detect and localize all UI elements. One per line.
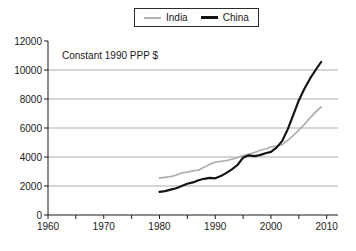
legend-label-china: China [223,13,249,23]
plot-area: 0200040006000800010000120001960197019801… [0,0,356,251]
legend-item-china: China [201,13,249,23]
chart-figure: 0200040006000800010000120001960197019801… [0,0,356,251]
y-tick-label: 6000 [20,123,43,134]
china-line-swatch [201,16,218,19]
y-tick-label: 8000 [20,94,43,105]
y-tick-label: 0 [36,210,42,221]
y-tick-label: 2000 [20,181,43,192]
y-tick-label: 4000 [20,152,43,163]
y-tick-label: 12000 [14,36,42,47]
units-annotation: Constant 1990 PPP $ [62,50,158,61]
series-line-india [160,107,322,178]
india-line-swatch [144,17,161,19]
y-tick-label: 10000 [14,65,42,76]
x-tick-label: 1990 [204,221,227,232]
x-tick-label: 1980 [148,221,171,232]
legend-label-india: India [166,13,188,23]
x-tick-label: 1970 [93,221,116,232]
x-tick-label: 2000 [260,221,283,232]
x-tick-label: 2010 [316,221,339,232]
legend-item-india: India [144,13,188,23]
x-tick-label: 1960 [37,221,60,232]
chart-legend: India China [134,8,259,27]
